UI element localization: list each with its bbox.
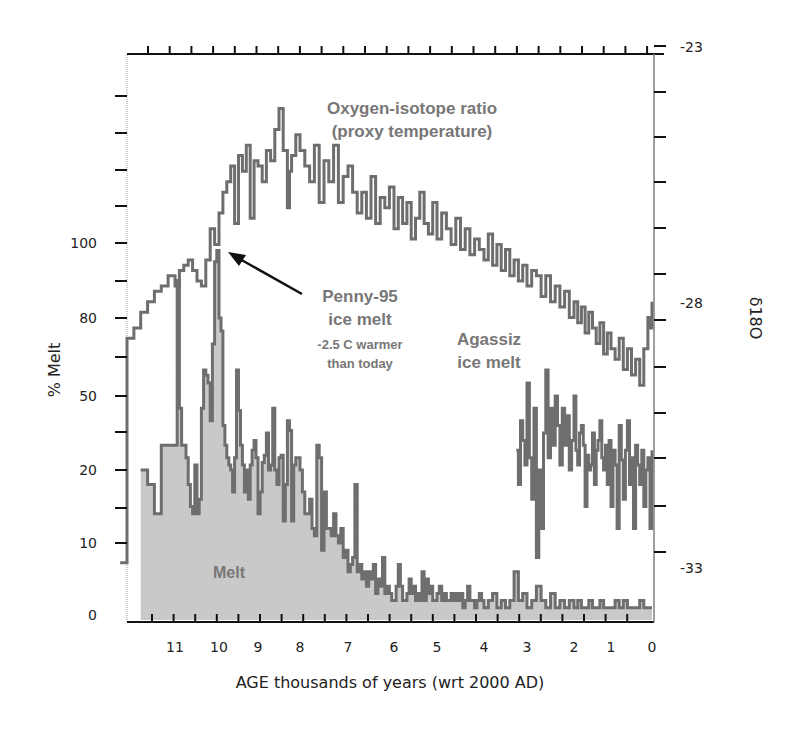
x-tick-label: 1 [607,639,616,655]
annotation-penny-line3: -2.5 C warmer [317,337,402,352]
x-tick-label: 11 [166,639,184,655]
y-left-tick-label: 50 [79,388,97,404]
x-tick-label: 10 [210,639,228,655]
y-right-tick-label: -28 [680,295,703,311]
x-axis-title: AGE thousands of years (wrt 2000 AD) [236,673,545,692]
x-tick-label: 3 [523,639,532,655]
x-tick-label: 5 [433,639,442,655]
x-tick-label: 6 [390,639,399,655]
x-tick-label: 4 [480,639,489,655]
y-left-tick-label: 80 [79,310,97,326]
annotation-isotope-line2: (proxy temperature) [332,122,493,141]
annotation-isotope-line1: Oxygen-isotope ratio [327,99,497,118]
annotation-penny-line2: ice melt [328,310,392,329]
x-tick-label: 9 [254,639,263,655]
y-right-tick-label: -23 [680,39,703,55]
y-left-tick-label: 10 [79,535,97,551]
y-left-tick-label: 0 [88,607,97,623]
x-tick-label: 7 [344,639,353,655]
annotation-penny-line1: Penny-95 [322,287,398,306]
y-right-tick-label: -33 [680,560,703,576]
y-axis-left-title: % Melt [45,343,64,398]
x-tick-label: 0 [648,639,657,655]
y-axis-right-title: δ18O [746,297,765,340]
annotation-agassiz-line2: ice melt [457,353,521,372]
y-left-tick-label: 100 [70,235,97,251]
x-tick-label: 8 [296,639,305,655]
annotation-agassiz-line1: Agassiz [457,330,521,349]
annotation-penny-line4: than today [327,356,393,371]
x-tick-label: 2 [570,639,579,655]
chart: 11109876543210100805020100-23-28-33 AGE … [0,0,805,735]
y-left-tick-label: 20 [79,462,97,478]
annotation-melt: Melt [213,564,246,581]
